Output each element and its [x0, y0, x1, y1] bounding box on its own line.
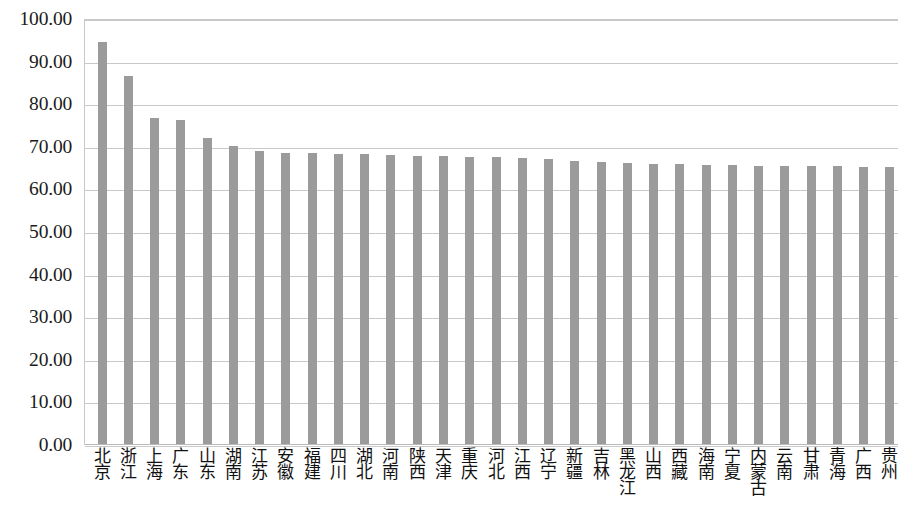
x-tick-label: 内蒙古: [749, 447, 766, 495]
bar: [386, 155, 395, 445]
bar: [176, 120, 185, 445]
x-tick-label: 贵州: [880, 447, 897, 479]
x-tick-label: 宁夏: [722, 447, 739, 479]
bar: [544, 159, 553, 445]
x-tick-label: 海南: [696, 447, 713, 479]
x-tick-label: 黑龙江: [617, 447, 634, 495]
y-tick-label: 40.00: [29, 265, 72, 285]
x-tick-label: 青海: [827, 447, 844, 479]
bar: [570, 161, 579, 445]
x-tick-label: 浙江: [118, 447, 135, 479]
y-tick-label: 50.00: [29, 222, 72, 242]
x-tick-label: 西藏: [670, 447, 687, 479]
x-axis: 北京浙江上海广东山东湖南江苏安徽福建四川湖北河南陕西天津重庆河北江西辽宁新疆吉林…: [84, 447, 898, 523]
bar: [150, 118, 159, 445]
bar: [229, 146, 238, 445]
bar: [780, 166, 789, 445]
y-tick-label: 0.00: [39, 435, 72, 455]
bar: [702, 165, 711, 445]
x-tick-label: 吉林: [591, 447, 608, 479]
bar: [308, 153, 317, 445]
y-tick-label: 20.00: [29, 350, 72, 370]
y-axis: 0.0010.0020.0030.0040.0050.0060.0070.008…: [0, 0, 78, 460]
y-tick-label: 90.00: [29, 52, 72, 72]
x-tick-label: 湖北: [355, 447, 372, 479]
x-tick-label: 辽宁: [539, 447, 556, 479]
axis-baseline: [85, 444, 898, 445]
x-tick-label: 新疆: [565, 447, 582, 479]
bar: [807, 166, 816, 445]
bar: [859, 167, 868, 445]
x-tick-label: 山东: [197, 447, 214, 479]
y-tick-label: 60.00: [29, 179, 72, 199]
y-tick-label: 10.00: [29, 392, 72, 412]
x-tick-label: 广西: [854, 447, 871, 479]
x-tick-label: 北京: [92, 447, 109, 479]
y-tick-label: 100.00: [20, 9, 72, 29]
bar: [255, 151, 264, 445]
x-tick-label: 江西: [512, 447, 529, 479]
bar: [98, 42, 107, 445]
bar: [597, 162, 606, 445]
y-tick-label: 70.00: [29, 137, 72, 157]
bar-chart: 0.0010.0020.0030.0040.0050.0060.0070.008…: [0, 0, 898, 523]
bar: [518, 158, 527, 445]
bar: [203, 138, 212, 445]
bar: [124, 76, 133, 445]
x-tick-label: 云南: [775, 447, 792, 479]
x-tick-label: 广东: [171, 447, 188, 479]
x-tick-label: 江苏: [250, 447, 267, 479]
x-tick-label: 重庆: [460, 447, 477, 479]
bars-layer: [85, 20, 898, 445]
bar: [334, 154, 343, 445]
bar: [885, 167, 894, 445]
bar: [465, 157, 474, 445]
bar: [492, 157, 501, 445]
bar: [728, 165, 737, 445]
x-tick-label: 福建: [302, 447, 319, 479]
x-tick-label: 甘肃: [801, 447, 818, 479]
x-tick-label: 四川: [328, 447, 345, 479]
plot-area: [84, 19, 898, 445]
bar: [413, 156, 422, 445]
y-tick-label: 80.00: [29, 94, 72, 114]
bar: [623, 163, 632, 445]
bar: [754, 166, 763, 445]
bar: [439, 156, 448, 445]
bar: [675, 164, 684, 445]
x-tick-label: 河北: [486, 447, 503, 479]
y-tick-label: 30.00: [29, 307, 72, 327]
x-tick-label: 陕西: [407, 447, 424, 479]
bar: [281, 153, 290, 445]
bar: [649, 164, 658, 445]
x-tick-label: 天津: [433, 447, 450, 479]
bar: [833, 166, 842, 445]
bar: [360, 154, 369, 445]
x-tick-label: 安徽: [276, 447, 293, 479]
x-tick-label: 山西: [644, 447, 661, 479]
x-tick-label: 上海: [145, 447, 162, 479]
x-tick-label: 河南: [381, 447, 398, 479]
x-tick-label: 湖南: [223, 447, 240, 479]
